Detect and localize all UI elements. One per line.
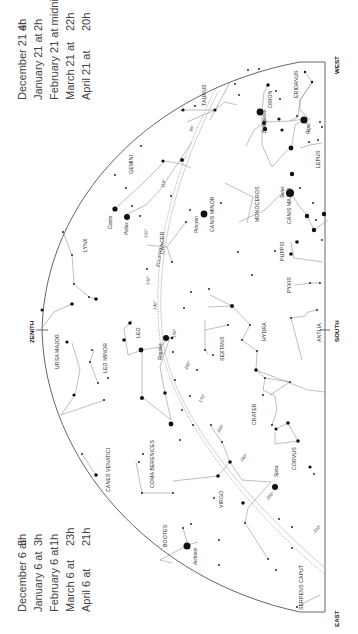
time-top-3-date: March 21 at: [64, 42, 76, 100]
time-top-3-time: 22h: [64, 13, 76, 31]
constellation-labels: TAURUS ORION ERIDANUS LEPUS GEMINI CANIS…: [54, 70, 322, 610]
label-canes-venatici: CANES VENATICI: [105, 448, 111, 492]
time-bottom-1-time: 3h: [32, 534, 44, 546]
time-bottom-0-date: December 6 at: [16, 540, 28, 612]
ecliptic-tick-120: 120°: [143, 229, 149, 239]
star-rigel: [300, 116, 307, 123]
ecliptic-tick-140: 140°: [152, 301, 158, 311]
ecliptic-tick-210: 210°: [311, 524, 322, 535]
label-west: WEST: [333, 56, 340, 74]
label-gemini: GEMINI: [128, 155, 134, 174]
ecliptic-tick-190: 190°: [239, 452, 249, 462]
label-virgo: VIRGO: [218, 491, 224, 508]
ecliptic-tick-130: 130°: [145, 276, 151, 286]
time-bottom-1-date: January 6 at: [32, 551, 44, 612]
label-canis-major: CANIS MAJOR: [286, 187, 292, 224]
label-antlia: ANTLIA: [316, 323, 322, 342]
label-monoceros: MONOCEROS: [254, 186, 260, 222]
label-spica: Spica: [274, 465, 279, 477]
label-procyon: Procyon: [194, 216, 199, 233]
label-castor: Castor: [108, 215, 113, 229]
label-pyxis: PYXIS: [286, 277, 292, 293]
label-taurus: TAURUS: [201, 84, 207, 106]
label-pollux: Pollux: [124, 222, 129, 235]
time-bottom-2-time: 1h: [48, 534, 60, 546]
label-arcturus: Arcturus: [193, 547, 198, 566]
ecliptic-tick-160: 160°: [183, 360, 191, 370]
star-arcturus: [184, 543, 191, 550]
label-puppis: PUPPIS: [279, 241, 285, 261]
label-crater: CRATER: [251, 403, 257, 425]
time-top-4-date: April 21 at: [80, 50, 92, 100]
label-eridanus: ERIDANUS: [293, 70, 299, 98]
time-top-1-time: 2h: [32, 19, 44, 31]
ecliptic-labels: ECLIPTIC 90° 110° 120° 130° 140° 150° 16…: [143, 124, 322, 534]
time-top-0-date: December 21 at: [16, 22, 28, 100]
time-top-0-time: 4h: [16, 19, 28, 31]
label-regulus: Regulus: [158, 342, 163, 360]
label-sirius: Sirius: [280, 186, 285, 198]
time-top-4-time: 20h: [80, 13, 92, 31]
time-bottom-3-date: March 6 at: [64, 560, 76, 612]
star-spica: [272, 484, 278, 490]
time-bottom-3-time: 23h: [64, 528, 76, 546]
label-leo-minor: LEO MINOR: [102, 343, 108, 373]
label-bootes: BOOTES: [162, 524, 168, 547]
ecliptic-line-2: [161, 92, 325, 568]
time-bottom-4-time: 21h: [80, 528, 92, 546]
label-ecliptic: ECLIPTIC: [155, 246, 163, 267]
label-coma-berenices: COMA BERENICES: [149, 439, 155, 488]
label-lynx: LYNX: [82, 238, 88, 252]
star-regulus: [163, 335, 169, 341]
constellation-lines: [42, 72, 328, 606]
star-castor: [112, 206, 117, 211]
time-bottom-2-date: February 6 at: [48, 547, 60, 612]
time-bottom-4-date: April 6 at: [80, 569, 92, 612]
label-south: SOUTH: [333, 320, 340, 342]
times-top: December 21 at 4h January 21 at 2h Febru…: [16, 0, 92, 100]
label-sextans: SEXTANS: [219, 336, 225, 361]
label-ursa-major: URSA MAJOR: [54, 334, 60, 369]
time-top-1-date: January 21 at: [32, 33, 44, 100]
label-rigel: Rigel: [306, 123, 311, 134]
label-betelgeuse: Betelgeuse: [262, 110, 267, 133]
time-bottom-0-time: 5h: [16, 534, 28, 546]
times-bottom: December 6 at 5h January 6 at 3h Februar…: [16, 528, 92, 612]
label-zenith: ZENITH: [28, 320, 35, 343]
label-lepus: LEPUS: [315, 150, 321, 168]
label-corvus: CORVUS: [291, 447, 297, 470]
label-leo: LEO: [135, 327, 141, 338]
stars: [41, 68, 327, 608]
ecliptic-tick-200: 200°: [264, 491, 275, 502]
star-procyon: [201, 211, 208, 218]
ecliptic-tick-180: 180°: [216, 423, 225, 433]
ecliptic-tick-150: 150°: [171, 328, 178, 338]
label-east: EAST: [333, 610, 340, 627]
ecliptic-tick-110: 110°: [160, 179, 166, 189]
label-serpens-caput: SERPENS CAPUT: [298, 564, 304, 610]
label-orion: ORION: [267, 90, 273, 108]
star-pollux: [124, 214, 130, 220]
time-top-2-date: February 21 at midnight: [48, 0, 60, 100]
label-hydra: HYDRA: [261, 322, 267, 341]
ecliptic-tick-90: 90°: [188, 124, 195, 132]
ecliptic-tick-170: 170°: [198, 393, 207, 403]
star-chart: TAURUS ORION ERIDANUS LEPUS GEMINI CANIS…: [0, 0, 358, 634]
label-canis-minor: CANIS MINOR: [209, 196, 215, 232]
